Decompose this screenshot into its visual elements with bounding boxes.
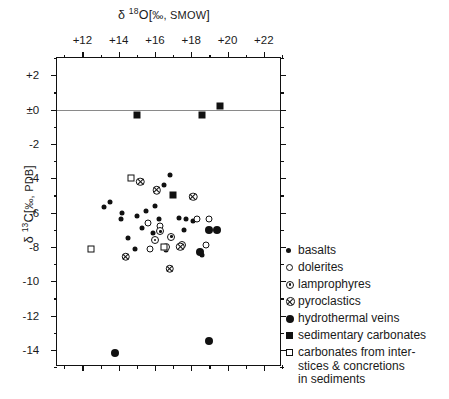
data-point-hydrothermal [196, 248, 204, 256]
y-tick-right [280, 161, 284, 162]
y-tick-left [54, 195, 58, 196]
x-tick-bottom [228, 365, 229, 371]
x-tick-top [137, 55, 138, 59]
plot-area: +12+14+16+18+20+22+2±0-2-4-6-8-10-12-14 [56, 57, 281, 366]
x-tick-top [119, 52, 120, 58]
y-tick-right [280, 367, 284, 368]
data-point-basalts [134, 213, 139, 218]
legend-item-lamprophyres: lamprophyres [286, 278, 449, 292]
data-point-pyroclastics [122, 252, 131, 261]
y-tick-right [280, 195, 284, 196]
data-point-basalts [143, 208, 148, 213]
y-tick-left [54, 92, 58, 93]
data-point-lamprophyres [167, 233, 175, 241]
data-point-sedimentary [170, 192, 177, 199]
open-circle-icon [286, 264, 293, 271]
y-tick-left [54, 230, 58, 231]
y-tick-right [280, 333, 284, 334]
legend-marker-icon [286, 261, 298, 274]
y-tick-right [280, 58, 284, 59]
data-point-basalts [118, 217, 123, 222]
dotted-circle-icon [286, 281, 294, 289]
data-point-basalts [125, 236, 130, 241]
data-point-basalts [152, 203, 157, 208]
y-tick-left [51, 178, 57, 179]
x-axis-isotope: 18 [129, 6, 139, 16]
y-tick-left [54, 367, 58, 368]
y-tick-left [51, 247, 57, 248]
y-tick-right [280, 213, 286, 214]
y-tick-right [280, 298, 284, 299]
x-tick-label: +14 [109, 34, 129, 46]
x-tick-bottom [82, 365, 83, 371]
y-tick-left [51, 281, 57, 282]
x-tick-top [228, 52, 229, 58]
data-point-hydrothermal [111, 349, 119, 357]
legend-marker-icon [286, 295, 298, 308]
x-tick-bottom [137, 365, 138, 369]
data-point-basalts [102, 205, 107, 210]
data-point-carbonates [161, 243, 168, 250]
x-axis-unit: ‰, SMOW [152, 9, 206, 21]
x-tick-top [209, 55, 210, 59]
data-point-basalts [182, 227, 187, 232]
x-tick-label: +16 [145, 34, 165, 46]
data-point-pyroclastics [136, 177, 145, 186]
legend-label: lamprophyres [298, 278, 371, 292]
y-tick-label: -12 [23, 310, 40, 322]
x-tick-bottom [101, 365, 102, 369]
y-tick-right [280, 127, 284, 128]
y-tick-left [54, 333, 58, 334]
data-point-basalts [107, 200, 112, 205]
data-point-dolerites [193, 216, 200, 223]
legend-label: carbonates from inter- stices & concreti… [298, 346, 415, 387]
y-tick-right [280, 264, 284, 265]
data-point-basalts [151, 231, 156, 236]
x-tick-top [155, 52, 156, 58]
data-point-dolerites [146, 245, 153, 252]
x-tick-top [101, 55, 102, 59]
legend-label: pyroclastics [298, 295, 361, 309]
legend-item-carbonates: carbonates from inter- stices & concreti… [286, 346, 449, 387]
x-tick-top [64, 55, 65, 59]
data-point-dolerites [202, 242, 209, 249]
data-points [57, 58, 280, 109]
x-tick-bottom [173, 365, 174, 369]
legend-marker-icon [286, 346, 298, 359]
y-tick-left [54, 264, 58, 265]
y-tick-label: -8 [29, 241, 39, 253]
legend-label: dolerites [298, 261, 343, 275]
data-point-basalts [133, 246, 138, 251]
data-point-pyroclastics [153, 186, 162, 195]
data-point-basalts [140, 225, 145, 230]
x-tick-label: +20 [218, 34, 238, 46]
x-tick-label: +22 [254, 34, 274, 46]
data-point-basalts [156, 217, 161, 222]
chart-canvas: δ 18O[‰, SMOW] δ 13C[‰, PDB] +12+14+16+1… [0, 0, 449, 399]
y-tick-left [54, 298, 58, 299]
legend-marker-icon [286, 329, 298, 342]
data-point-lamprophyres [151, 236, 159, 244]
data-point-hydrothermal [213, 226, 221, 234]
y-tick-right [280, 110, 286, 111]
y-tick-left [51, 110, 57, 111]
zero-reference-line [57, 110, 280, 111]
data-point-dolerites [206, 216, 213, 223]
data-point-pyroclastics [165, 265, 174, 274]
x-tick-bottom [209, 365, 210, 369]
y-tick-left [51, 350, 57, 351]
legend-marker-icon [286, 244, 298, 257]
data-point-lamprophyres [156, 227, 164, 235]
data-point-sedimentary [199, 111, 206, 118]
x-tick-top [173, 55, 174, 59]
y-tick-left [51, 75, 57, 76]
y-tick-right [280, 178, 286, 179]
y-tick-label: ±0 [26, 104, 39, 116]
x-tick-top [246, 55, 247, 59]
legend-marker-icon [286, 278, 298, 291]
x-tick-bottom [155, 365, 156, 371]
data-point-dolerites [144, 219, 151, 226]
y-axis-bracket-close: ] [22, 165, 36, 169]
y-tick-left [51, 144, 57, 145]
x-tick-top [191, 52, 192, 58]
